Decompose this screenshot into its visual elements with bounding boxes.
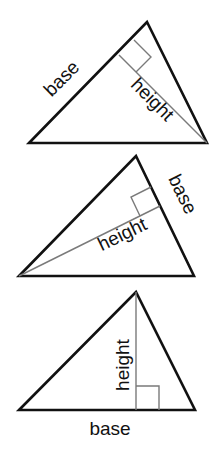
triangle-3-height-label: height [112,338,133,390]
triangle-1-right-angle-marker [134,40,151,72]
triangle-2-height-label: height [94,213,150,255]
triangle-1-height-label: height [127,74,179,126]
triangle-3: base height [19,292,195,439]
triangle-diagram: base height base height base height [0,0,219,463]
triangle-3-outline [19,292,195,410]
triangle-3-right-angle-marker [136,386,159,410]
triangle-2: base height [19,156,201,276]
triangle-3-base-label: base [89,418,130,439]
triangle-2-base-label: base [164,171,201,217]
triangle-1: base height [29,22,207,143]
triangle-2-outline [19,156,194,276]
